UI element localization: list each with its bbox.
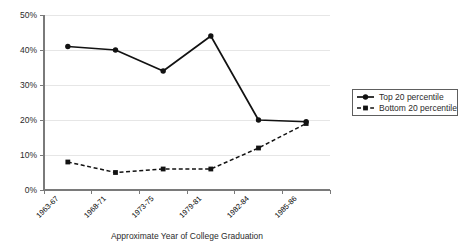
y-tick-label: 20% xyxy=(20,115,37,125)
y-tick-label: 50% xyxy=(20,10,37,20)
data-point xyxy=(65,44,70,49)
x-tick-marks xyxy=(44,190,330,194)
y-tick-label: 0% xyxy=(25,185,38,195)
x-tick-label: 1985-86 xyxy=(273,194,299,220)
data-point xyxy=(256,146,261,151)
data-point xyxy=(208,167,213,172)
x-tick-label: 1982-84 xyxy=(225,194,251,220)
data-point xyxy=(304,121,309,126)
x-axis-title: Approximate Year of College Graduation xyxy=(111,231,263,241)
line-chart: 0%10%20%30%40%50% 1963-671968-711973-751… xyxy=(0,0,467,245)
data-point xyxy=(256,117,261,122)
legend-swatch-marker xyxy=(363,106,368,111)
data-point xyxy=(113,47,118,52)
x-tick-label: 1968-71 xyxy=(82,194,108,220)
legend-label-1: Top 20 percentile xyxy=(379,92,444,102)
series-line-2 xyxy=(68,124,306,173)
x-tick-label: 1973-75 xyxy=(130,194,156,220)
data-point xyxy=(113,170,118,175)
data-series xyxy=(65,33,309,175)
y-tick-labels: 0%10%20%30%40%50% xyxy=(20,10,37,195)
y-tick-label: 10% xyxy=(20,150,37,160)
x-tick-labels: 1963-671968-711973-751979-811982-841985-… xyxy=(34,194,298,220)
chart-container: 0%10%20%30%40%50% 1963-671968-711973-751… xyxy=(0,0,467,245)
x-tick-label: 1979-81 xyxy=(177,194,203,220)
data-point xyxy=(65,160,70,165)
y-tick-label: 30% xyxy=(20,80,37,90)
series-line-1 xyxy=(68,36,306,122)
data-point xyxy=(208,33,213,38)
data-point xyxy=(161,167,166,172)
legend: Top 20 percentileBottom 20 percentile xyxy=(352,89,457,115)
x-tick-label: 1963-67 xyxy=(34,194,60,220)
legend-label-2: Bottom 20 percentile xyxy=(379,103,457,113)
legend-swatch-marker xyxy=(363,94,368,99)
data-point xyxy=(160,68,165,73)
y-tick-label: 40% xyxy=(20,45,37,55)
